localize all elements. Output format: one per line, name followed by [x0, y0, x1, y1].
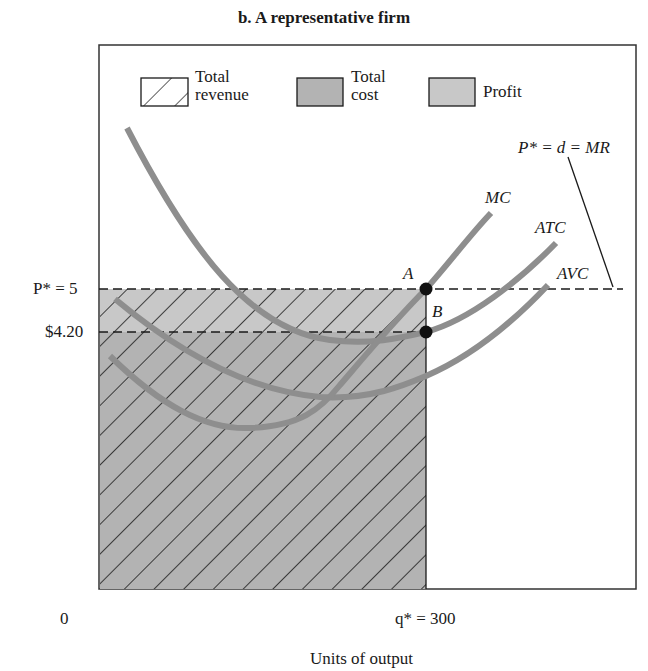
x-tick-q-star: q* = 300 [395, 609, 456, 629]
legend-total-revenue-line1: Total [195, 68, 249, 86]
mc-label: MC [485, 188, 511, 208]
point-b-marker [420, 326, 433, 339]
total-revenue-hatch [100, 289, 426, 589]
legend-total-cost: Total cost [351, 68, 386, 104]
x-tick-origin: 0 [60, 609, 69, 629]
legend-profit: Profit [483, 83, 522, 101]
point-b-label: B [432, 302, 442, 322]
price-line-label: P* = d = MR [518, 138, 610, 158]
legend-swatch-profit [429, 78, 475, 106]
y-tick-p-star: P* = 5 [33, 279, 78, 299]
legend-total-revenue-line2: revenue [195, 86, 249, 104]
point-a-label: A [403, 264, 413, 284]
avc-label: AVC [557, 264, 588, 284]
legend-total-cost-line2: cost [351, 86, 386, 104]
x-axis-label: Units of output [310, 649, 413, 669]
chart-canvas [0, 0, 648, 671]
legend-total-revenue: Total revenue [195, 68, 249, 104]
atc-label: ATC [535, 218, 566, 238]
legend-total-cost-line1: Total [351, 68, 386, 86]
legend-hatch [141, 78, 188, 106]
point-a-marker [420, 283, 433, 296]
legend-swatch-total-cost [297, 78, 343, 106]
y-tick-4-20: $4.20 [45, 322, 83, 342]
